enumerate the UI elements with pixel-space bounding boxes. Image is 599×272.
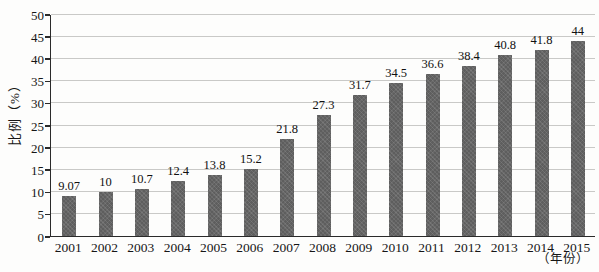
bar-2001 [62, 196, 76, 236]
bar-value-label: 36.6 [422, 57, 444, 72]
x-tick-label-2012: 2012 [454, 240, 481, 256]
bar-value-label: 27.3 [313, 98, 335, 113]
y-tick-label: 50 [4, 9, 44, 22]
bar-value-label: 9.07 [58, 179, 80, 194]
y-tick-mark [45, 214, 50, 216]
bar-value-label: 34.5 [385, 66, 407, 81]
bar-value-label: 15.2 [240, 152, 262, 167]
bar-2006 [244, 169, 258, 236]
bar-value-label: 13.8 [204, 158, 226, 173]
bar-value-label: 38.4 [458, 49, 480, 64]
x-tick-label-2005: 2005 [200, 240, 227, 256]
gridline [51, 80, 595, 81]
bar-2015 [571, 41, 585, 236]
y-tick-mark [45, 147, 50, 149]
y-tick-mark [45, 236, 50, 238]
y-tick-mark [45, 58, 50, 60]
x-tick-label-2013: 2013 [491, 240, 518, 256]
bar-value-label: 40.8 [494, 38, 516, 53]
bar-value-label: 41.8 [531, 33, 553, 48]
y-tick-label: 35 [4, 75, 44, 88]
bar-2004 [171, 181, 185, 236]
bar-2008 [317, 115, 331, 236]
y-tick-label: 0 [4, 231, 44, 244]
x-tick-label-2009: 2009 [345, 240, 372, 256]
y-tick-label: 30 [4, 97, 44, 110]
y-tick-label: 5 [4, 208, 44, 221]
y-axis-title: 比例（%） [4, 78, 23, 146]
y-tick-label: 45 [4, 31, 44, 44]
bar-chart-figure: 比例（%） 9.071010.712.413.815.221.827.331.7… [0, 0, 599, 272]
y-tick-mark [45, 36, 50, 38]
gridline [51, 58, 595, 59]
y-tick-mark [45, 81, 50, 83]
y-tick-label: 20 [4, 142, 44, 155]
bar-value-label: 12.4 [167, 164, 189, 179]
y-tick-label: 10 [4, 186, 44, 199]
x-tick-label-2010: 2010 [382, 240, 409, 256]
y-tick-mark [45, 169, 50, 171]
y-tick-label: 15 [4, 164, 44, 177]
x-tick-label-2007: 2007 [273, 240, 300, 256]
bar-value-label: 10.7 [131, 172, 153, 187]
y-tick-mark [45, 103, 50, 105]
bar-2011 [426, 74, 440, 237]
y-tick-label: 25 [4, 120, 44, 133]
x-tick-label-2008: 2008 [309, 240, 336, 256]
plot-area: 9.071010.712.413.815.221.827.331.734.536… [50, 15, 595, 237]
bar-value-label: 10 [99, 175, 112, 190]
x-axis-title: （年份） [537, 248, 589, 267]
gridline [51, 14, 595, 15]
bar-2014 [535, 50, 549, 236]
bar-2012 [462, 66, 476, 236]
bar-2003 [135, 189, 149, 237]
x-tick-label-2004: 2004 [164, 240, 191, 256]
x-tick-label-2003: 2003 [127, 240, 154, 256]
bar-value-label: 21.8 [276, 122, 298, 137]
x-tick-label-2006: 2006 [236, 240, 263, 256]
y-tick-mark [45, 14, 50, 16]
y-tick-mark [45, 125, 50, 127]
bar-2010 [389, 83, 403, 236]
bar-2007 [280, 139, 294, 236]
bar-2005 [208, 175, 222, 236]
y-tick-label: 40 [4, 53, 44, 66]
bar-2009 [353, 95, 367, 236]
x-tick-label-2001: 2001 [55, 240, 82, 256]
bar-value-label: 44 [572, 24, 585, 39]
bar-value-label: 31.7 [349, 78, 371, 93]
x-tick-label-2002: 2002 [91, 240, 118, 256]
y-tick-mark [45, 192, 50, 194]
x-tick-label-2011: 2011 [418, 240, 445, 256]
bar-2013 [498, 55, 512, 236]
bar-2002 [99, 192, 113, 236]
gridline [51, 36, 595, 37]
